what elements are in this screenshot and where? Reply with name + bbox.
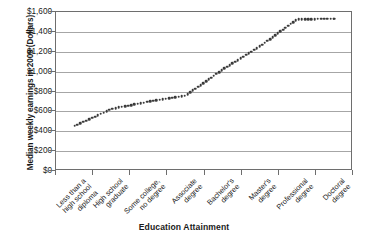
data-point [313, 18, 316, 21]
x-tick-mark [204, 170, 205, 175]
data-point [329, 17, 332, 20]
gridline [56, 52, 351, 53]
y-tick-mark [49, 51, 55, 52]
gridline [56, 32, 351, 33]
gridline [56, 131, 351, 132]
data-point [297, 18, 300, 21]
y-tick-label: $1,400 [12, 26, 52, 35]
y-tick-label: $0 [12, 166, 52, 175]
y-tick-label: $200 [12, 146, 52, 155]
data-point [304, 18, 307, 21]
y-tick-mark [49, 31, 55, 32]
data-point [333, 17, 336, 20]
y-tick-label: $1,200 [12, 46, 52, 55]
x-tick-mark [92, 170, 93, 175]
x-tick-mark [166, 170, 167, 175]
data-point [301, 18, 304, 21]
gridline [56, 72, 351, 73]
data-point [326, 18, 329, 21]
gridline [56, 151, 351, 152]
y-tick-label: $600 [12, 106, 52, 115]
y-tick-label: $1,600 [12, 7, 52, 16]
y-axis-tick-labels: $0$200$400$600$800$1,000$1,200$1,400$1,6… [12, 10, 52, 170]
y-tick-mark [49, 130, 55, 131]
gridline [56, 92, 351, 93]
y-tick-mark [49, 150, 55, 151]
data-point [320, 18, 323, 21]
x-tick-mark [352, 170, 353, 175]
y-tick-mark [49, 91, 55, 92]
earnings-by-education-chart: Median weekly earnings in 2009 (Dollars)… [0, 0, 368, 240]
y-tick-mark [49, 71, 55, 72]
data-point [317, 18, 320, 21]
x-tick-mark [315, 170, 316, 175]
x-tick-mark [55, 170, 56, 175]
x-tick-mark [241, 170, 242, 175]
y-tick-mark [49, 11, 55, 12]
y-tick-label: $400 [12, 126, 52, 135]
x-tick-mark [129, 170, 130, 175]
y-tick-label: $800 [12, 86, 52, 95]
y-tick-mark [49, 110, 55, 111]
plot-area [55, 11, 352, 170]
x-tick-mark [278, 170, 279, 175]
data-point [310, 18, 313, 21]
y-tick-label: $1,000 [12, 66, 52, 75]
